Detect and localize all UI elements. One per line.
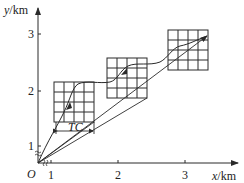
diagram-canvas: y/km x/km O 1 2 3 1 2 3 TC	[0, 0, 244, 183]
y-tick-label-2: 2	[28, 84, 34, 98]
x-tick-label-3: 3	[182, 168, 188, 182]
y-tick-label-3: 3	[28, 27, 34, 41]
tc-label: TC	[68, 120, 84, 134]
y-axis-label: y/km	[3, 3, 29, 17]
x-tick-label-1: 1	[48, 168, 54, 182]
origin-label: O	[27, 167, 36, 181]
x-tick-label-2: 2	[115, 168, 121, 182]
y-tick-label-1: 1	[28, 139, 34, 153]
x-axis-label: x/km	[211, 169, 237, 183]
